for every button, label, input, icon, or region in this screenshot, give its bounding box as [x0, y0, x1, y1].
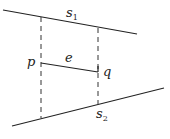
- label-p: p: [27, 54, 36, 69]
- label-q: q: [103, 64, 111, 79]
- label-s1-sub: 1: [73, 13, 78, 22]
- label-s1: s1: [66, 5, 78, 22]
- label-s2: s2: [96, 106, 108, 123]
- diagram-canvas: s1 s2 e p q: [0, 0, 170, 139]
- label-e: e: [65, 50, 73, 65]
- segment-s2: [12, 88, 164, 126]
- label-s2-sub: 2: [103, 114, 108, 123]
